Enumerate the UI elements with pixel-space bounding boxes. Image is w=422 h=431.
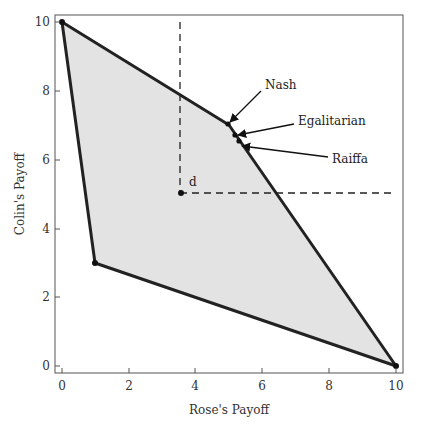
nash-point <box>225 121 230 126</box>
x-axis: 0 2 4 6 8 10 Rose's Payoff <box>58 368 403 417</box>
x-tick-label: 4 <box>191 379 199 393</box>
x-tick-label: 6 <box>258 379 266 393</box>
x-tick-label: 2 <box>125 379 133 393</box>
y-axis-label: Colin's Payoff <box>13 151 27 235</box>
raiffa-arrow <box>242 146 328 157</box>
x-tick-label: 10 <box>388 379 403 393</box>
egalitarian-label: Egalitarian <box>298 114 366 128</box>
bargaining-chart: d Nash Egalitarian Raiffa 0 2 4 6 8 10 R… <box>0 0 422 431</box>
egalitarian-arrow <box>238 124 294 135</box>
y-axis: 0 2 4 6 8 10 Colin's Payoff <box>13 15 60 373</box>
vertex-dot <box>92 260 98 266</box>
raiffa-point <box>236 138 241 143</box>
feasible-region <box>62 22 396 366</box>
x-axis-label: Rose's Payoff <box>189 403 270 417</box>
nash-arrow <box>230 91 261 122</box>
x-tick-label: 0 <box>58 379 66 393</box>
y-tick-label: 4 <box>42 222 50 236</box>
x-tick-label: 8 <box>325 379 333 393</box>
y-tick-label: 8 <box>42 84 50 98</box>
disagreement-point <box>178 190 184 196</box>
raiffa-label: Raiffa <box>332 152 368 166</box>
y-tick-label: 6 <box>42 153 50 167</box>
y-tick-label: 10 <box>35 15 50 29</box>
d-label: d <box>189 175 197 189</box>
y-tick-label: 0 <box>42 359 50 373</box>
y-tick-label: 2 <box>42 290 50 304</box>
egalitarian-point <box>232 132 237 137</box>
nash-label: Nash <box>265 78 297 92</box>
